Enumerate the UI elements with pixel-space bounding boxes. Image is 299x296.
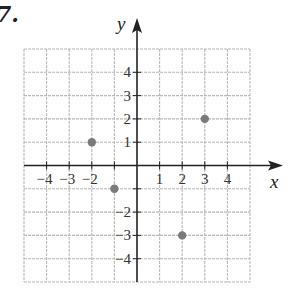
x-tick-label: 2 <box>178 171 186 187</box>
y-tick-label: 2 <box>124 111 132 127</box>
x-tick-label: 1 <box>156 171 164 187</box>
x-tick-label: 4 <box>224 171 232 187</box>
x-tick-label: 3 <box>201 171 209 187</box>
y-tick-label: 4 <box>124 64 132 80</box>
y-tick-label: −4 <box>115 251 131 267</box>
data-points <box>88 115 209 240</box>
y-tick-label: 3 <box>124 88 132 104</box>
coordinate-plane: 7. x y −4−3−212344321−2−3−4 <box>0 0 299 296</box>
y-tick-label: 1 <box>124 134 132 150</box>
data-point <box>178 231 186 239</box>
data-point <box>88 138 96 146</box>
x-tick-label: −4 <box>37 171 53 187</box>
y-axis-label: y <box>115 13 126 34</box>
problem-number: 7. <box>0 1 19 27</box>
y-tick-label: −2 <box>115 204 131 220</box>
y-tick-label: −3 <box>115 227 131 243</box>
x-tick-label: −2 <box>82 171 98 187</box>
x-axis-label: x <box>269 171 279 192</box>
data-point <box>201 115 209 123</box>
x-tick-label: −3 <box>59 171 75 187</box>
data-point <box>110 185 118 193</box>
axes: x y <box>24 13 283 282</box>
